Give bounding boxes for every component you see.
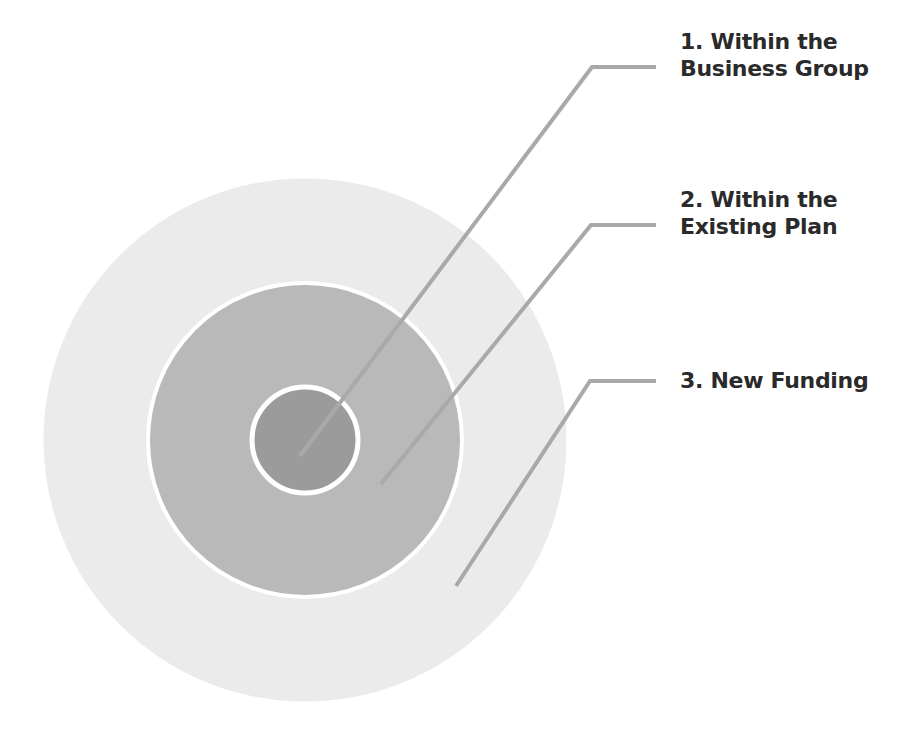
concentric-circles-diagram [0,0,915,732]
label-within-business-group: 1. Within the Business Group [680,28,869,82]
label-3-line-1: 3. New Funding [680,367,868,394]
label-new-funding: 3. New Funding [680,367,868,394]
label-1-line-1: 1. Within the [680,28,869,55]
label-1-line-2: Business Group [680,55,869,82]
label-2-line-2: Existing Plan [680,213,837,240]
label-2-line-1: 2. Within the [680,186,837,213]
label-within-existing-plan: 2. Within the Existing Plan [680,186,837,240]
